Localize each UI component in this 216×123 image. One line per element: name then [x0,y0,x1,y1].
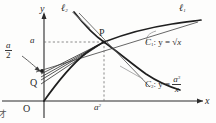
x-axis [2,98,203,103]
c2-relation: : y = [154,79,173,89]
line-l1-label: ℓ1 [179,3,186,13]
y-axis-label: y [40,4,44,14]
leader-l2 [72,12,90,28]
x-tick-label-a-squared: a2 [94,103,101,112]
point-Q-marker [40,69,44,73]
c1-relation: : y = [154,37,173,47]
annotation-a-over-2: a 2 [5,41,12,60]
fraction-a-cubed-over-x: a3 x [172,75,181,94]
guide-lines [44,42,104,101]
x-axis-label: x [205,96,209,106]
annotation-arrow-q [22,56,41,72]
y-tick-label-a: a [30,36,35,45]
c2-numerator-exponent: 3 [178,75,181,80]
math-figure: y x O ℓ1 ℓ2 P Q a a2 a 2 C1: y = √x C2: … [0,0,216,123]
point-p-label: P [99,28,105,38]
point-q-label: Q [30,78,37,88]
c1-expression: √x [172,37,181,47]
point-P-marker [102,40,105,43]
fraction-denominator: 2 [5,51,12,60]
line-l1-subscript: 1 [183,8,186,13]
figure-canvas [0,0,216,123]
line-l2-subscript: 2 [65,8,68,13]
x-tick-exponent: 2 [99,103,102,108]
curve-c2-label: C2: y = a3 x [145,75,181,94]
line-l2-label: ℓ2 [61,3,68,13]
y-axis [42,12,47,118]
origin-label: O [23,104,30,114]
c2-denominator: x [172,85,181,94]
corner-text: オ [0,110,7,119]
curve-c1-label: C1: y = √x [145,38,181,47]
fraction-a-half: a 2 [5,41,12,60]
